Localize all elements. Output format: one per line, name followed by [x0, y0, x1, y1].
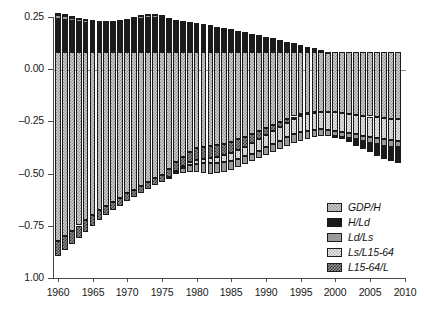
bar-segment — [353, 52, 359, 115]
bar-segment — [110, 202, 116, 211]
bar-segment — [214, 52, 220, 145]
bar-column[interactable] — [318, 0, 324, 261]
bar-segment — [201, 147, 207, 159]
bar-column[interactable] — [110, 0, 116, 261]
legend-swatch-icon — [327, 203, 342, 212]
bar-segment — [201, 52, 207, 146]
legend-item[interactable]: L15-64/L — [327, 260, 419, 274]
bar-column[interactable] — [214, 0, 220, 261]
bar-segment — [166, 19, 172, 52]
bar-column[interactable] — [103, 0, 109, 261]
bar-segment — [221, 28, 227, 52]
bar-column[interactable] — [90, 0, 96, 261]
bar-segment — [256, 35, 262, 52]
bar-segment — [97, 52, 103, 210]
bar-segment — [346, 114, 352, 133]
bar-segment — [249, 143, 255, 153]
legend-swatch-icon — [327, 218, 342, 227]
bar-column[interactable] — [249, 0, 255, 261]
bar-segment — [117, 23, 123, 52]
bar-segment — [187, 165, 193, 171]
bar-segment — [367, 117, 373, 137]
chart-legend: GDP/HH/LdLd/LsLs/L15-64L15-64/L — [327, 200, 419, 275]
bar-segment — [381, 146, 387, 159]
bar-segment — [291, 43, 297, 52]
legend-item[interactable]: Ls/L15-64 — [327, 245, 419, 259]
bar-column[interactable] — [270, 0, 276, 261]
bar-column[interactable] — [277, 0, 283, 261]
bar-segment — [124, 22, 130, 52]
bar-segment — [249, 34, 255, 53]
bar-segment — [145, 52, 151, 182]
bar-column[interactable] — [138, 0, 144, 261]
bar-column[interactable] — [131, 0, 137, 261]
bar-column[interactable] — [62, 0, 68, 261]
bar-segment — [90, 23, 96, 52]
bar-column[interactable] — [180, 0, 186, 261]
bar-column[interactable] — [242, 0, 248, 261]
bar-segment — [249, 52, 255, 133]
x-tick-label: 1975 — [142, 286, 182, 298]
bar-column[interactable] — [228, 0, 234, 261]
bar-segment — [55, 13, 61, 16]
bar-column[interactable] — [145, 0, 151, 261]
bar-column[interactable] — [187, 0, 193, 261]
bar-segment — [152, 52, 158, 178]
bar-column[interactable] — [83, 0, 89, 261]
bar-column[interactable] — [117, 0, 123, 261]
bar-segment — [298, 52, 304, 114]
bar-column[interactable] — [201, 0, 207, 261]
bar-segment — [83, 23, 89, 53]
bar-segment — [374, 52, 380, 117]
bar-segment — [277, 141, 283, 149]
bar-segment — [395, 147, 401, 163]
bar-segment — [180, 52, 186, 156]
bar-segment — [235, 150, 241, 159]
bar-segment — [249, 154, 255, 162]
bar-segment — [208, 163, 214, 174]
bar-segment — [312, 52, 318, 112]
bar-column[interactable] — [208, 0, 214, 261]
bar-segment — [325, 52, 331, 54]
bar-segment — [180, 168, 186, 173]
bar-segment — [124, 19, 130, 21]
x-tick-mark — [266, 278, 267, 282]
bar-column[interactable] — [173, 0, 179, 261]
bar-segment — [235, 159, 241, 167]
bar-segment — [291, 119, 297, 134]
legend-item[interactable]: Ld/Ls — [327, 230, 419, 244]
legend-item[interactable]: H/Ld — [327, 215, 419, 229]
bar-column[interactable] — [76, 0, 82, 261]
bar-segment — [395, 119, 401, 141]
bar-column[interactable] — [312, 0, 318, 261]
x-tick-mark — [162, 278, 163, 282]
bar-column[interactable] — [221, 0, 227, 261]
bar-segment — [339, 137, 345, 140]
bar-column[interactable] — [159, 0, 165, 261]
bar-segment — [208, 25, 214, 52]
bar-column[interactable] — [298, 0, 304, 261]
bar-column[interactable] — [291, 0, 297, 261]
bar-column[interactable] — [69, 0, 75, 261]
bar-segment — [173, 162, 179, 170]
bar-segment — [235, 52, 241, 139]
bar-column[interactable] — [152, 0, 158, 261]
bar-column[interactable] — [166, 0, 172, 261]
bar-column[interactable] — [256, 0, 262, 261]
bar-segment — [62, 16, 68, 19]
bar-segment — [103, 52, 109, 206]
bar-column[interactable] — [263, 0, 269, 261]
x-tick-mark — [58, 278, 59, 282]
bar-column[interactable] — [194, 0, 200, 261]
bar-column[interactable] — [235, 0, 241, 261]
bar-column[interactable] — [97, 0, 103, 261]
bar-column[interactable] — [124, 0, 130, 261]
bar-column[interactable] — [55, 0, 61, 261]
bar-segment — [249, 134, 255, 144]
y-tick-label: –0.50 — [0, 167, 44, 179]
bar-column[interactable] — [305, 0, 311, 261]
bar-column[interactable] — [284, 0, 290, 261]
legend-item[interactable]: GDP/H — [327, 200, 419, 214]
bar-segment — [110, 24, 116, 53]
bar-segment — [298, 116, 304, 132]
